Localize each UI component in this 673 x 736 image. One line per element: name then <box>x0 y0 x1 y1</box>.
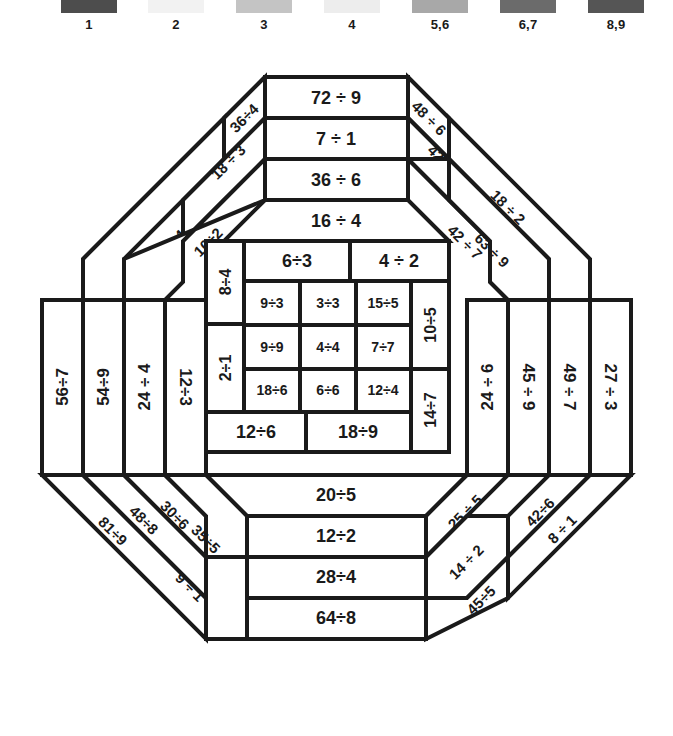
legend-swatch-6-7-icon <box>500 0 556 13</box>
legend-item-2: 2 <box>133 0 219 32</box>
cell-center-right-1-label: 10÷5 <box>422 307 439 343</box>
color-by-number-puzzle: 72 ÷ 9 7 ÷ 1 36 ÷ 6 16 ÷ 4 40÷5 24 ÷ 4 3… <box>0 42 673 736</box>
legend-item-6-7: 6,7 <box>485 0 571 32</box>
legend-swatch-8-9-icon <box>588 0 644 13</box>
cell-right-col-1-label: 24 ÷ 6 <box>478 363 497 410</box>
cell-inner-r3c3-label: 12÷4 <box>367 382 398 398</box>
legend-label-3: 3 <box>221 17 307 32</box>
legend-label-5-6: 5,6 <box>397 17 483 32</box>
cell-left-col-3-label: 24 ÷ 4 <box>135 363 154 411</box>
cell-center-right-2-label: 14÷7 <box>422 392 439 428</box>
legend-swatch-3-icon <box>236 0 292 13</box>
cell-inner-r2c3-label: 7÷7 <box>371 339 394 355</box>
worksheet-page: 1 2 3 4 5,6 6,7 8,9 <box>0 0 673 736</box>
cell-bl-diag-5[interactable] <box>206 557 247 639</box>
cell-inner-r1c1-label: 9÷3 <box>260 295 283 311</box>
cell-top-row-2-label: 7 ÷ 1 <box>316 129 356 149</box>
cell-center-top-1-label: 6÷3 <box>282 251 312 271</box>
cell-inner-r1c3-label: 15÷5 <box>367 295 398 311</box>
legend-label-4: 4 <box>309 17 395 32</box>
legend-swatch-2-icon <box>148 0 204 13</box>
color-legend: 1 2 3 4 5,6 6,7 8,9 <box>0 0 673 38</box>
cell-inner-r2c2-label: 4÷4 <box>316 339 339 355</box>
cell-bottom-row-4-label: 64÷8 <box>316 608 356 628</box>
cell-inner-r2c1-label: 9÷9 <box>260 339 283 355</box>
cell-top-row-3-label: 36 ÷ 6 <box>311 170 361 190</box>
cell-right-col-2-label: 45 ÷ 9 <box>519 363 538 410</box>
cell-top-row-1-label: 72 ÷ 9 <box>311 88 361 108</box>
legend-item-8-9: 8,9 <box>573 0 659 32</box>
legend-item-1: 1 <box>46 0 132 32</box>
legend-label-2: 2 <box>133 17 219 32</box>
legend-swatch-4-icon <box>324 0 380 13</box>
cell-inner-r1c2-label: 3÷3 <box>316 295 339 311</box>
cell-left-col-2-label: 54÷9 <box>94 368 113 406</box>
legend-swatch-5-6-icon <box>412 0 468 13</box>
bottom-right-diagonal-group: 25 ÷ 5 42÷6 14 ÷ 2 8 ÷ 1 45÷5 <box>426 475 631 639</box>
cell-top-row-4-label: 16 ÷ 4 <box>311 211 361 231</box>
cell-left-col-1-label: 56÷7 <box>53 368 72 406</box>
cell-br-diag-4[interactable] <box>508 475 631 598</box>
legend-label-8-9: 8,9 <box>573 17 659 32</box>
cell-inner-r3c1-label: 18÷6 <box>256 382 287 398</box>
legend-swatch-1-icon <box>61 0 117 13</box>
left-column-group: 56÷7 54÷9 24 ÷ 4 12÷3 <box>42 300 206 475</box>
cell-left-col-4-label: 12÷3 <box>176 368 195 406</box>
cell-bottom-row-3-label: 28÷4 <box>316 567 356 587</box>
cell-center-bottom-1-label: 12÷6 <box>236 422 276 442</box>
cell-center-top-2-label: 4 ÷ 2 <box>379 251 419 271</box>
cell-inner-r3c2-label: 6÷6 <box>316 382 339 398</box>
legend-item-4: 4 <box>309 0 395 32</box>
legend-label-1: 1 <box>46 17 132 32</box>
legend-label-6-7: 6,7 <box>485 17 571 32</box>
cell-center-left-2-label: 2÷1 <box>217 355 234 382</box>
center-grid-group: 8÷4 2÷1 6÷3 4 ÷ 2 10÷5 14÷7 9÷3 3÷3 15÷5… <box>206 241 449 452</box>
cell-right-col-4-label: 27 ÷ 3 <box>601 363 620 410</box>
cell-center-bottom-2-label: 18÷9 <box>338 422 378 442</box>
right-column-group: 24 ÷ 6 45 ÷ 9 49 ÷ 7 27 ÷ 3 <box>467 300 631 475</box>
legend-item-3: 3 <box>221 0 307 32</box>
bottom-left-diagonal-group: 81÷9 48÷8 30÷6 35÷5 9 ÷ 1 <box>42 475 247 639</box>
cell-bottom-row-1-label: 20÷5 <box>316 485 356 505</box>
cell-bottom-row-2-label: 12÷2 <box>316 526 356 546</box>
cell-center-left-1-label: 8÷4 <box>217 269 234 296</box>
legend-item-5-6: 5,6 <box>397 0 483 32</box>
cell-right-col-3-label: 49 ÷ 7 <box>560 363 579 410</box>
